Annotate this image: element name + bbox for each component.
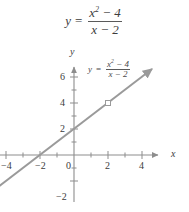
title-equation-equals: = bbox=[74, 13, 83, 29]
title-equation-denominator: x − 2 bbox=[88, 21, 122, 37]
y-axis-name: y bbox=[70, 46, 74, 57]
title-equation-row: y = x2 − 4 x − 2 bbox=[65, 6, 124, 37]
x-tick-label-2: 2 bbox=[105, 160, 110, 171]
title-equation-lhs: y bbox=[65, 13, 71, 29]
open-circle-hole-marker bbox=[106, 101, 111, 106]
function-line bbox=[0, 69, 152, 194]
line-y-equals-x-plus-2 bbox=[0, 69, 152, 194]
curve-label-fraction: x2 − 4 x − 2 bbox=[105, 59, 131, 80]
curve-label-equation: y = x2 − 4 x − 2 bbox=[88, 59, 131, 80]
y-tick-label-4: 4 bbox=[60, 97, 65, 108]
y-tick-label-2: 2 bbox=[60, 123, 65, 134]
title-equation: y = x2 − 4 x − 2 bbox=[0, 6, 189, 37]
curve-label-lhs: y bbox=[88, 64, 92, 74]
title-equation-fraction: x2 − 4 x − 2 bbox=[86, 6, 124, 37]
curve-label-row: y = x2 − 4 x − 2 bbox=[88, 59, 131, 80]
x-tick-label-4: 4 bbox=[139, 160, 144, 171]
title-equation-numerator: x2 − 4 bbox=[86, 6, 124, 21]
curve-label-numerator-exponent: 2 bbox=[111, 58, 114, 64]
y-tick-label--2: −2 bbox=[56, 191, 67, 202]
x-axis bbox=[0, 151, 158, 159]
x-axis-name: x bbox=[171, 148, 175, 159]
x-tick-label--4: −4 bbox=[1, 160, 12, 171]
y-axis bbox=[70, 67, 78, 202]
title-equation-numerator-rest: − 4 bbox=[102, 5, 121, 20]
curve-label-numerator: x2 − 4 bbox=[105, 59, 131, 69]
curve-label-numerator-rest: − 4 bbox=[116, 59, 129, 69]
x-tick-label-0: 0 bbox=[66, 160, 71, 171]
curve-label-equals: = bbox=[95, 64, 102, 74]
y-tick-label-6: 6 bbox=[60, 71, 65, 82]
curve-label-denominator: x − 2 bbox=[106, 69, 129, 79]
x-tick-label--2: −2 bbox=[35, 160, 46, 171]
title-equation-numerator-exponent: 2 bbox=[95, 5, 99, 14]
